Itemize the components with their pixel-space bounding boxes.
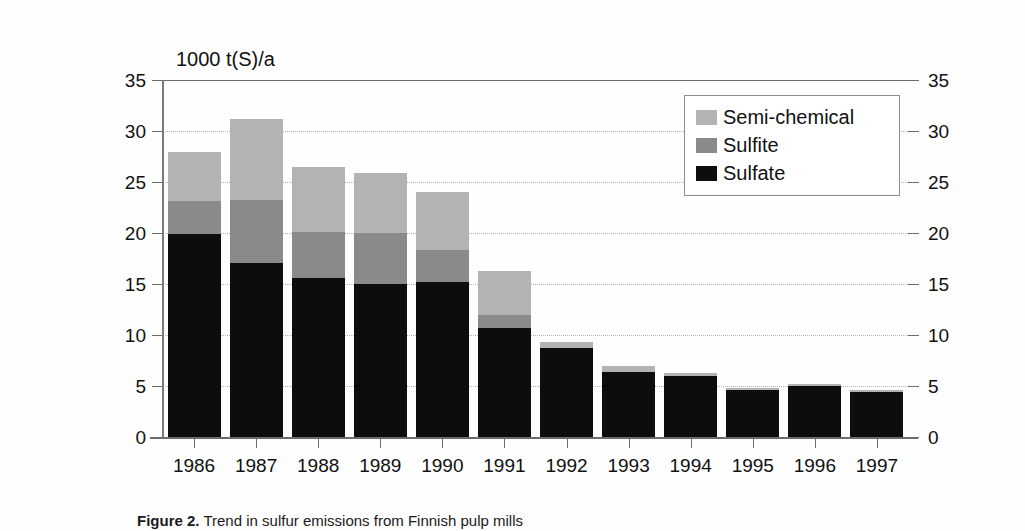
- legend-label: Sulfate: [723, 163, 785, 183]
- bar-segment[interactable]: [788, 386, 841, 437]
- bar-segment[interactable]: [540, 342, 593, 348]
- x-axis-tick-label: 1988: [287, 455, 349, 477]
- bar-group[interactable]: [416, 80, 469, 437]
- bar-segment[interactable]: [292, 278, 345, 437]
- bar-segment[interactable]: [354, 284, 407, 437]
- y-axis-tick-label-left: 30: [106, 122, 146, 141]
- bar-segment[interactable]: [478, 315, 531, 328]
- x-axis-tick-label: 1989: [349, 455, 411, 477]
- bar-segment[interactable]: [230, 119, 283, 201]
- bar-segment[interactable]: [416, 192, 469, 250]
- bar-segment[interactable]: [168, 152, 221, 201]
- y-axis-tick-label-left: 0: [106, 428, 146, 447]
- y-tick-right: [908, 284, 919, 285]
- bar-segment[interactable]: [168, 201, 221, 234]
- x-axis-tick-label: 1990: [411, 455, 473, 477]
- y-axis-unit-label: 1000 t(S)/a: [176, 48, 275, 71]
- bar-segment[interactable]: [850, 392, 903, 437]
- y-axis-labels-left: 05101520253035: [100, 0, 146, 531]
- legend-swatch-icon: [696, 166, 717, 181]
- x-tick: [753, 437, 754, 448]
- legend: Semi-chemicalSulfiteSulfate: [684, 95, 900, 196]
- y-axis-tick-label-right: 30: [928, 122, 968, 141]
- bar-group[interactable]: [602, 80, 655, 437]
- bar-segment[interactable]: [416, 250, 469, 282]
- bar-group[interactable]: [168, 80, 221, 437]
- y-axis-tick-label-right: 5: [928, 377, 968, 396]
- y-axis-labels-right: 05101520253035: [928, 0, 974, 531]
- figure-caption: Figure 2. Trend in sulfur emissions from…: [137, 512, 957, 529]
- y-axis-tick-label-right: 10: [928, 326, 968, 345]
- caption-text: Trend in sulfur emissions from Finnish p…: [203, 512, 523, 529]
- bar-segment[interactable]: [168, 234, 221, 437]
- bar-segment[interactable]: [726, 390, 779, 437]
- x-tick: [380, 437, 381, 448]
- y-axis-tick-label-right: 15: [928, 275, 968, 294]
- legend-item[interactable]: Sulfate: [696, 159, 889, 187]
- x-tick: [815, 437, 816, 448]
- y-tick-right: [908, 233, 919, 234]
- y-tick-right: [908, 386, 919, 387]
- legend-label: Sulfite: [723, 135, 779, 155]
- x-tick: [256, 437, 257, 448]
- x-tick: [877, 437, 878, 448]
- bar-group[interactable]: [230, 80, 283, 437]
- y-tick-right: [908, 131, 919, 132]
- bar-segment[interactable]: [230, 263, 283, 437]
- bar-segment[interactable]: [354, 233, 407, 284]
- x-tick: [629, 437, 630, 448]
- x-axis-tick-label: 1991: [473, 455, 535, 477]
- bar-segment[interactable]: [850, 390, 903, 392]
- x-tick: [194, 437, 195, 448]
- y-axis-tick-label-right: 20: [928, 224, 968, 243]
- bar-group[interactable]: [292, 80, 345, 437]
- legend-swatch-icon: [696, 110, 717, 125]
- x-tick: [567, 437, 568, 448]
- x-tick: [318, 437, 319, 448]
- bar-segment[interactable]: [230, 200, 283, 262]
- bar-segment[interactable]: [292, 232, 345, 278]
- bar-segment[interactable]: [664, 376, 717, 437]
- y-axis-tick-label-left: 5: [106, 377, 146, 396]
- y-tick-right: [908, 80, 919, 81]
- bar-group[interactable]: [540, 80, 593, 437]
- bar-segment[interactable]: [354, 173, 407, 233]
- bar-segment[interactable]: [788, 384, 841, 386]
- x-axis-tick-label: 1992: [536, 455, 598, 477]
- figure-container: 1000 t(S)/a 05101520253035 0510152025303…: [0, 0, 1025, 531]
- bar-segment[interactable]: [416, 282, 469, 437]
- bar-group[interactable]: [478, 80, 531, 437]
- bar-segment[interactable]: [478, 271, 531, 315]
- bar-segment[interactable]: [602, 372, 655, 437]
- x-axis-tick-label: 1996: [784, 455, 846, 477]
- bar-segment[interactable]: [478, 328, 531, 437]
- bar-segment[interactable]: [292, 167, 345, 232]
- x-axis-tick-label: 1995: [722, 455, 784, 477]
- bar-segment[interactable]: [602, 366, 655, 372]
- caption-label: Figure 2.: [137, 512, 200, 529]
- x-axis-tick-label: 1987: [225, 455, 287, 477]
- x-axis-line: [150, 437, 918, 439]
- y-axis-tick-label-left: 15: [106, 275, 146, 294]
- bar-segment[interactable]: [664, 373, 717, 376]
- bar-segment[interactable]: [726, 388, 779, 390]
- y-axis-tick-label-left: 20: [106, 224, 146, 243]
- y-axis-tick-label-left: 35: [106, 71, 146, 90]
- y-tick-right: [908, 182, 919, 183]
- bar-group[interactable]: [354, 80, 407, 437]
- y-axis-tick-label-right: 0: [928, 428, 968, 447]
- x-axis-tick-label: 1997: [846, 455, 908, 477]
- y-axis-tick-label-left: 10: [106, 326, 146, 345]
- x-axis-tick-label: 1994: [660, 455, 722, 477]
- bar-segment[interactable]: [540, 348, 593, 437]
- legend-item[interactable]: Sulfite: [696, 131, 889, 159]
- y-axis-tick-label-left: 25: [106, 173, 146, 192]
- legend-label: Semi-chemical: [723, 107, 854, 127]
- x-tick: [442, 437, 443, 448]
- x-axis-tick-label: 1993: [598, 455, 660, 477]
- x-axis-tick-label: 1986: [163, 455, 225, 477]
- legend-item[interactable]: Semi-chemical: [696, 103, 889, 131]
- y-tick-right: [908, 335, 919, 336]
- x-tick: [504, 437, 505, 448]
- y-axis-tick-label-right: 25: [928, 173, 968, 192]
